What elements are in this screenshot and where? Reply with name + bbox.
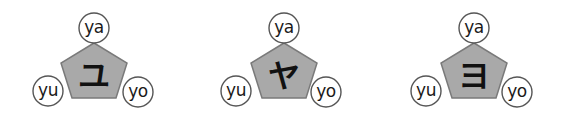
bubble-left-1[interactable]: yu (33, 76, 63, 106)
bubble-top-3[interactable]: ya (459, 13, 489, 43)
bubble-top-1[interactable]: ya (79, 13, 109, 43)
kana-2: ヤ (268, 57, 300, 95)
bubble-top-2[interactable]: ya (269, 13, 299, 43)
bubble-top-2-label: ya (274, 17, 293, 37)
bubble-right-2-label: yo (316, 81, 336, 101)
bubble-left-2[interactable]: yu (221, 76, 251, 106)
bubble-right-3[interactable]: yo (502, 77, 532, 107)
bubble-right-1[interactable]: yo (123, 77, 153, 107)
kana-choice-diagrams: ユ ya yu yo ヤ ya yu yo ヨ (0, 0, 562, 116)
diagram-2: ヤ ya yu yo (221, 13, 341, 107)
bubble-right-3-label: yo (507, 81, 527, 101)
bubble-left-2-label: yu (226, 80, 246, 100)
bubble-left-3-label: yu (416, 80, 436, 100)
bubble-top-1-label: ya (84, 17, 103, 37)
diagram-3: ヨ ya yu yo (411, 13, 532, 107)
kana-3: ヨ (458, 57, 490, 95)
bubble-left-3[interactable]: yu (411, 76, 441, 106)
diagram-1: ユ ya yu yo (33, 13, 153, 107)
bubble-left-1-label: yu (38, 80, 58, 100)
bubble-top-3-label: ya (464, 17, 483, 37)
bubble-right-2[interactable]: yo (311, 77, 341, 107)
bubble-right-1-label: yo (128, 81, 148, 101)
kana-1: ユ (78, 57, 110, 95)
